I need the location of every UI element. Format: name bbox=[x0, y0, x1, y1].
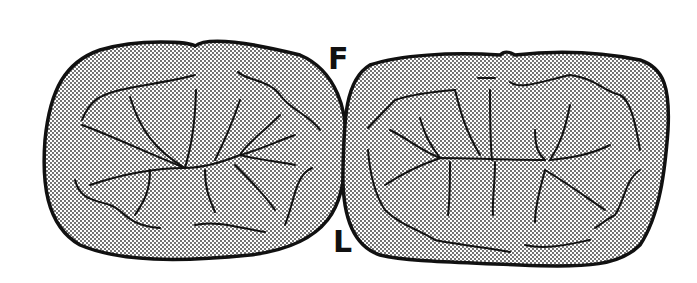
facial-label: F bbox=[328, 44, 349, 74]
left-tooth bbox=[44, 41, 346, 259]
lingual-label: L bbox=[333, 227, 352, 257]
right-tooth bbox=[343, 52, 668, 266]
